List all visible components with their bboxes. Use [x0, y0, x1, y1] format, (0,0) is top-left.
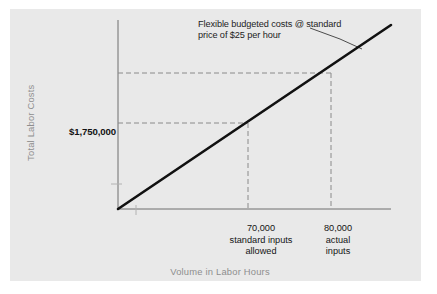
- y-axis-value-label: $1,750,000: [69, 126, 116, 138]
- x-axis-title: Volume in Labor Hours: [120, 266, 320, 277]
- annotation-line-2: price of $25 per hour: [198, 30, 281, 40]
- budget-cost-line: [118, 25, 391, 209]
- x-tick-actual-sublabel-2: inputs: [295, 246, 381, 258]
- y-axis-title: Total Labor Costs: [25, 63, 36, 183]
- chart-frame: Flexible budgeted costs @ standard price…: [10, 9, 421, 281]
- x-tick-actual-number: 80,000: [295, 223, 381, 235]
- flexible-budget-annotation: Flexible budgeted costs @ standard price…: [198, 19, 341, 41]
- annotation-line-1: Flexible budgeted costs @ standard: [198, 19, 341, 29]
- x-tick-actual-inputs: 80,000 actual inputs: [295, 223, 381, 258]
- x-tick-actual-sublabel-1: actual: [295, 235, 381, 247]
